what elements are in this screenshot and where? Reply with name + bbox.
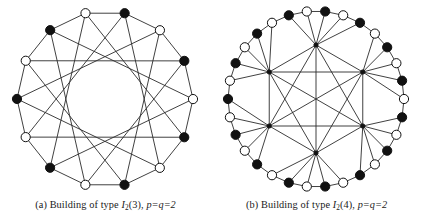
graph-edge [85,13,184,137]
graph-edge [363,126,397,135]
graph-edge [269,72,316,153]
graph-vertex-white [188,94,197,103]
figure-panel-a: (a) Building of type I2(3), p=q=2 [0,0,211,224]
graph-edge [236,63,270,72]
graph-vertex-black [12,94,21,103]
caption-params-a: p=q=2 [146,199,175,210]
graph-edge [184,61,193,99]
graph-vertex-black [253,160,262,169]
graph-vertex-black [397,113,406,122]
graph-edges [17,13,193,185]
graph-diagram-i2-3 [0,0,211,198]
graph-vertex-black [46,26,55,35]
figure-panel-b: (b) Building of type I2(4), p=q=2 [211,0,422,224]
graph-edge [269,45,316,72]
caption-type-arg-a: (3), [129,199,144,210]
graph-edge [269,126,316,153]
graph-vertex-black [267,124,271,128]
graph-vertex-black [355,18,364,27]
graph-vertex-black [180,56,189,65]
graph-vertex-white [392,59,401,68]
caption-panel-b: (b) Building of type I2(4), p=q=2 [211,198,422,215]
graph-vertex-black [231,130,240,139]
graph-edge [125,168,160,185]
graph-vertex-white [339,11,348,20]
graph-vertex-white [392,130,401,139]
graph-vertex-black [253,29,262,38]
graph-vertex-black [397,76,406,85]
graph-edge [50,99,193,168]
graph-edge [363,117,402,126]
graph-edge [50,13,85,168]
graph-vertex-black [321,182,330,191]
graph-edge [50,13,85,30]
graph-vertex-black [383,43,392,52]
graph-diagram-i2-4 [211,0,422,198]
graph-vertex-white [267,18,276,27]
graph-edge [316,126,363,153]
graph-vertex-white [155,26,164,35]
graph-vertex-black [314,151,318,155]
graph-vertex-black [45,163,54,172]
graph-edge [184,99,193,137]
caption-params-b: p=q=2 [358,199,387,210]
graph-edge [360,126,363,175]
graph-vertices [12,9,197,190]
graph-edge [26,30,50,61]
caption-panel-a: (a) Building of type I2(3), p=q=2 [0,198,211,215]
graph-edge [50,30,85,185]
graph-edge [50,168,85,185]
graph-vertex-black [180,133,189,142]
graph-edge [316,45,363,72]
graph-vertex-black [321,7,330,16]
graph-vertex-black [284,11,293,20]
graph-edge [26,61,125,185]
graph-edge [17,99,160,168]
caption-label-a: (a) [35,199,47,210]
graph-vertex-white [81,180,90,189]
graph-vertex-white [370,29,379,38]
graph-vertex-white [302,182,311,191]
graph-vertex-black [284,178,293,187]
graph-vertex-white [370,160,379,169]
graph-edge [316,23,360,45]
graph-edge [26,13,125,137]
graph-vertex-white [225,113,234,122]
graph-edge [228,99,269,126]
graph-edge [363,63,397,72]
caption-text-b: Building of type [261,199,330,210]
graph-vertex-white [240,43,249,52]
graph-vertex-white [225,76,234,85]
graph-edge [50,30,193,99]
graph-vertex-black [383,146,392,155]
graph-edge [125,13,160,168]
graph-edge [363,72,404,99]
graph-edge [160,30,184,61]
graph-edge [230,72,269,81]
graph-vertex-white [21,56,30,65]
graph-edge [17,99,26,137]
graph-vertex-white [155,163,164,172]
graph-vertex-white [21,133,30,142]
graph-vertex-black [361,124,365,128]
graph-vertex-white [302,7,311,16]
graph-vertex-black [120,180,129,189]
graph-vertex-black [355,171,364,180]
graph-vertex-white [267,171,276,180]
graph-vertex-black [314,43,318,47]
graph-edge [17,30,160,99]
caption-type-arg-b: (4), [340,199,355,210]
graph-vertex-white [240,146,249,155]
graph-edge [269,23,272,72]
graph-edge [26,137,50,168]
graph-vertex-black [223,94,232,103]
graph-vertex-black [361,70,365,74]
graph-vertex-white [81,9,90,18]
graph-edge [272,153,316,175]
graph-vertex-white [339,178,348,187]
graph-vertex-black [120,9,129,18]
graph-edge [17,61,26,99]
graph-edge [85,61,184,185]
graph-vertex-white [399,94,408,103]
graph-edge [125,30,160,185]
